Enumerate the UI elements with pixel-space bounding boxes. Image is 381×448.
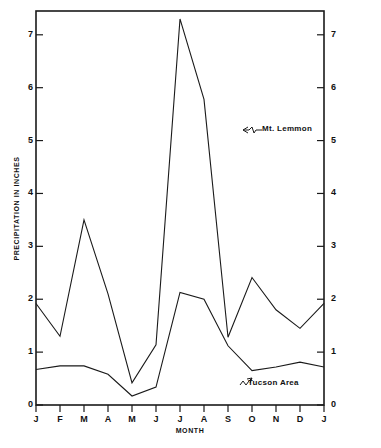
x-tick-label-7: A (197, 414, 211, 424)
y-tick-label-right-5: 5 (331, 135, 345, 145)
y-tick-label-right-7: 7 (331, 29, 345, 39)
annotation-leaders (240, 127, 262, 385)
y-tick-label-right-6: 6 (331, 82, 345, 92)
y-tick-label-left-5: 5 (19, 135, 33, 145)
x-tick-label-4: M (125, 414, 139, 424)
x-tick-label-6: J (173, 414, 187, 424)
annotation-mt-lemmon: Mt. Lemmon (262, 124, 312, 133)
y-tick-label-left-6: 6 (19, 82, 33, 92)
x-tick-label-11: D (293, 414, 307, 424)
y-tick-label-right-1: 1 (331, 346, 345, 356)
y-tick-label-right-4: 4 (331, 187, 345, 197)
y-tick-label-left-1: 1 (19, 346, 33, 356)
y-tick-label-right-0: 0 (331, 399, 345, 409)
y-axis-title: PRECIPITATION IN INCHES (13, 149, 20, 269)
y-tick-label-left-3: 3 (19, 240, 33, 250)
x-tick-label-9: O (245, 414, 259, 424)
y-tick-label-left-4: 4 (19, 187, 33, 197)
annotation-tucson-area: Tucson Area (248, 378, 299, 387)
x-tick-label-10: N (269, 414, 283, 424)
chart-canvas (0, 0, 381, 448)
x-tick-label-5: J (149, 414, 163, 424)
series-line-mt-lemmon (36, 19, 324, 383)
x-tick-label-12: J (317, 414, 331, 424)
y-axis-ticks-right (317, 35, 324, 405)
y-tick-label-left-0: 0 (19, 399, 33, 409)
y-tick-label-left-7: 7 (19, 29, 33, 39)
y-tick-label-left-2: 2 (19, 293, 33, 303)
series-layer (36, 19, 324, 396)
plot-frame (36, 11, 324, 405)
x-axis-title: MONTH (150, 427, 230, 434)
x-tick-label-1: F (53, 414, 67, 424)
x-tick-label-2: M (77, 414, 91, 424)
y-axis-ticks-left (36, 35, 43, 405)
x-tick-label-0: J (29, 414, 43, 424)
x-axis-ticks (36, 405, 324, 412)
precipitation-figure: PRECIPITATION IN INCHES MONTH Mt. Lemmon… (0, 0, 381, 448)
x-tick-label-3: A (101, 414, 115, 424)
x-tick-label-8: S (221, 414, 235, 424)
y-tick-label-right-2: 2 (331, 293, 345, 303)
y-tick-label-right-3: 3 (331, 240, 345, 250)
